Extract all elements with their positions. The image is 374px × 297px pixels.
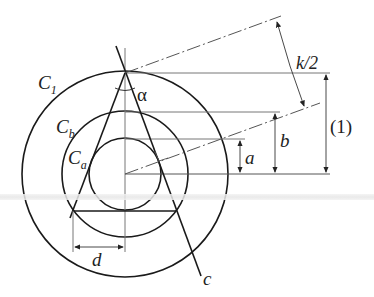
line-c	[116, 46, 201, 276]
gray-scan-band	[0, 194, 374, 200]
dim-k-half	[277, 22, 290, 66]
label-a: a	[245, 147, 255, 168]
geometry-svg: C1 Cb Ca α k/2 (1) a b d c	[0, 0, 374, 297]
label-d: d	[92, 249, 102, 270]
diagram-canvas: C1 Cb Ca α k/2 (1) a b d c	[0, 0, 374, 297]
label-b: b	[280, 130, 290, 151]
label-1: (1)	[330, 116, 352, 138]
label-alpha: α	[137, 84, 147, 105]
label-c1: C1	[38, 72, 57, 97]
label-cb: Cb	[56, 116, 75, 141]
label-c: c	[203, 268, 212, 289]
label-ca: Ca	[68, 147, 87, 172]
right-angle-mark	[155, 152, 168, 161]
label-k-half: k/2	[296, 53, 318, 73]
dashdot-upper	[125, 16, 281, 73]
